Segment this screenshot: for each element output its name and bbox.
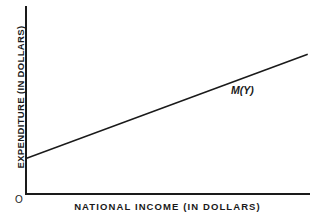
curve-label-my: M(Y) (231, 84, 254, 96)
y-axis-label: EXPENDITURE (IN DOLLARS) (14, 2, 28, 192)
figure-canvas: EXPENDITURE (IN DOLLARS) NATIONAL INCOME… (0, 0, 313, 221)
plot-area (0, 0, 313, 221)
x-axis-label: NATIONAL INCOME (IN DOLLARS) (25, 201, 310, 213)
data-line-my (26, 55, 307, 159)
origin-label: O (15, 194, 23, 206)
